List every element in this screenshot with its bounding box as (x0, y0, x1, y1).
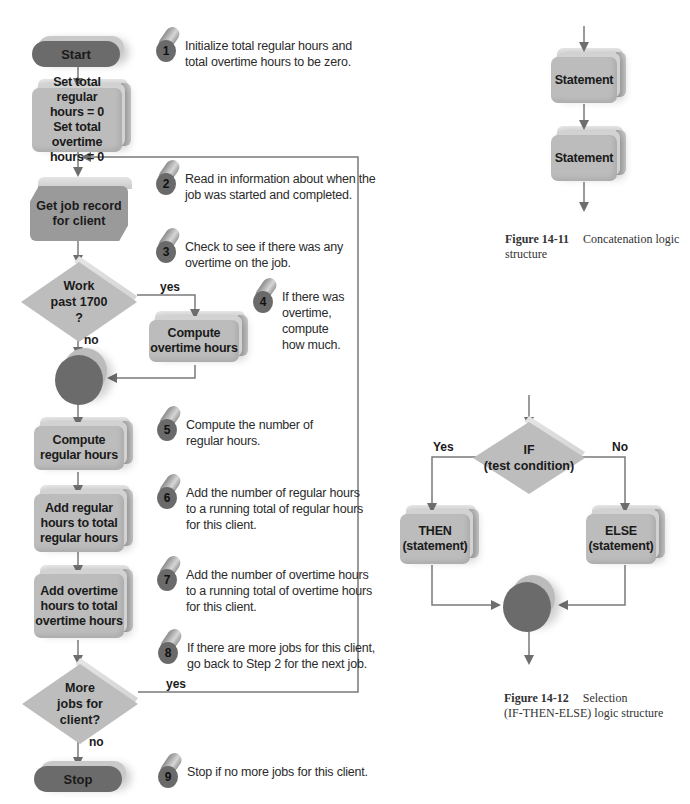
step-text: Add the number of overtime hours to a ru… (186, 567, 372, 615)
step-text: Read in information about when the job w… (185, 171, 376, 203)
else-text: ELSE (statement) (588, 524, 653, 554)
compute-overtime-text: Compute overtime hours (150, 326, 238, 356)
step-text: If there was overtime, compute how much. (282, 289, 344, 353)
concat-statement-1: Statement (551, 57, 617, 103)
step-7: 7 Add the number of overtime hours to a … (157, 561, 372, 615)
step-number-badge: 9 (158, 758, 184, 788)
no-label-more: no (89, 735, 104, 749)
step-text: Add the number of regular hours to a run… (186, 485, 363, 533)
step-2: 2 Read in information about when the job… (156, 165, 376, 203)
step-number-badge: 2 (156, 165, 182, 195)
then-text: THEN (statement) (402, 524, 467, 554)
compute-regular-process: Compute regular hours (34, 426, 124, 470)
no-label: No (612, 440, 628, 454)
work-past-1700-text: Work past 1700 ? (51, 278, 108, 326)
get-job-record-text: Get job record for client (36, 199, 121, 229)
add-overtime-process: Add overtime hours to total overtime hou… (34, 574, 124, 638)
step-number-badge: 5 (157, 411, 183, 441)
step-5: 5 Compute the number of regular hours. (157, 411, 313, 449)
join-connector (55, 355, 103, 405)
step-number-badge: 7 (157, 561, 183, 591)
yes-label-more: yes (166, 677, 186, 691)
add-regular-text: Add regular hours to total regular hours (40, 501, 118, 546)
step-1: 1 Initialize total regular hours and tot… (156, 32, 352, 70)
add-overtime-text: Add overtime hours to total overtime hou… (35, 584, 123, 629)
figure-number: Figure 14-12 (504, 691, 569, 705)
step-number-badge: 8 (158, 634, 184, 664)
get-job-record-input: Get job record for client (30, 186, 128, 241)
else-statement: ELSE (statement) (586, 514, 656, 564)
step-9: 9 Stop if no more jobs for this client. (158, 758, 368, 788)
stop-label: Stop (64, 772, 93, 787)
step-text: Initialize total regular hours and total… (185, 38, 352, 70)
step-text: If there are more jobs for this client, … (187, 640, 375, 672)
step-text: Compute the number of regular hours. (186, 417, 313, 449)
step-number-badge: 3 (156, 233, 182, 263)
figure-number: Figure 14-11 (505, 232, 569, 246)
join-connector (503, 582, 551, 632)
statement-text: Statement (555, 73, 614, 88)
yes-label-overtime: yes (160, 280, 180, 294)
init-totals-text: Set total regular hours = 0 Set total ov… (32, 75, 122, 165)
compute-overtime-process: Compute overtime hours (149, 320, 239, 362)
statement-text: Statement (555, 151, 614, 166)
step-text: Check to see if there was any overtime o… (185, 239, 343, 271)
step-text: Stop if no more jobs for this client. (187, 764, 368, 780)
step-number-badge: 1 (156, 32, 182, 62)
init-totals-process: Set total regular hours = 0 Set total ov… (32, 88, 122, 152)
then-statement: THEN (statement) (400, 514, 470, 564)
if-text: IF (test condition) (484, 442, 574, 474)
step-4: 4 If there was overtime, compute how muc… (253, 283, 344, 353)
figure-14-11-caption: Figure 14-11Concatenation logic structur… (505, 232, 690, 262)
compute-regular-text: Compute regular hours (40, 433, 118, 463)
step-number-badge: 4 (253, 283, 279, 313)
yes-label: Yes (433, 440, 454, 454)
more-jobs-decision: More jobs for client? (22, 664, 138, 744)
figure-14-12-caption: Figure 14-12Selection (IF-THEN-ELSE) log… (504, 676, 689, 721)
no-label-overtime: no (84, 333, 99, 347)
step-number-badge: 6 (157, 479, 183, 509)
step-6: 6 Add the number of regular hours to a r… (157, 479, 363, 533)
stop-terminal: Stop (34, 766, 122, 792)
start-label: Start (61, 47, 91, 62)
add-regular-process: Add regular hours to total regular hours (34, 494, 124, 552)
step-3: 3 Check to see if there was any overtime… (156, 233, 343, 271)
if-test-condition-decision: IF (test condition) (473, 422, 585, 494)
step-8: 8 If there are more jobs for this client… (158, 634, 375, 672)
work-past-1700-decision: Work past 1700 ? (21, 262, 137, 342)
more-jobs-text: More jobs for client? (57, 680, 103, 728)
concat-statement-2: Statement (551, 135, 617, 181)
start-terminal: Start (32, 41, 120, 67)
